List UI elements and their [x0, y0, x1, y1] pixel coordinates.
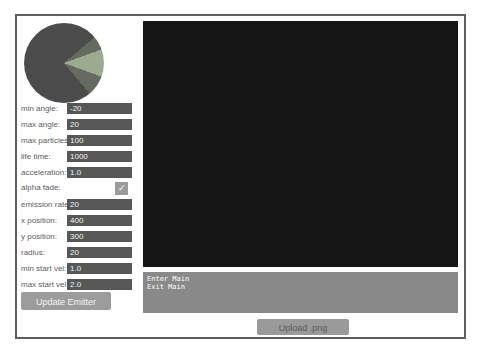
life-time-input[interactable]: 1000: [67, 151, 132, 162]
min-start-vel-label: min start vel:: [21, 264, 66, 273]
max-particles-value: 100: [67, 135, 132, 146]
update-emitter-button[interactable]: Update Emitter: [21, 292, 111, 310]
max-angle-input[interactable]: 20: [67, 119, 132, 130]
min-angle-label: min angle:: [21, 104, 58, 113]
field-row-max-start-vel: max start vel: 2.0: [21, 279, 133, 290]
y-position-label: y position:: [21, 232, 57, 241]
field-row-alpha-fade: alpha fade: ✓: [21, 182, 133, 195]
alpha-fade-checkbox[interactable]: ✓: [115, 182, 128, 195]
min-angle-value: -20: [67, 103, 132, 114]
page-frame: min angle: -20 max angle: 20 max particl…: [15, 14, 466, 339]
max-angle-value: 20: [67, 119, 132, 130]
max-particles-input[interactable]: 100: [67, 135, 132, 146]
field-row-min-angle: min angle: -20: [21, 103, 133, 114]
field-row-radius: radius: 20: [21, 247, 133, 258]
field-row-x-position: x position: 400: [21, 215, 133, 226]
emission-rate-value: 20: [67, 199, 132, 210]
y-position-value: 300: [67, 231, 132, 242]
console-log: Enter Main Exit Main: [143, 272, 458, 313]
particle-render-canvas[interactable]: [143, 21, 458, 267]
emission-rate-label: emission rate:: [21, 200, 71, 209]
max-start-vel-input[interactable]: 2.0: [67, 279, 132, 290]
field-row-emission-rate: emission rate: 20: [21, 199, 133, 210]
min-start-vel-value: 1.0: [67, 263, 132, 274]
acceleration-label: acceleration:: [21, 168, 66, 177]
field-row-max-angle: max angle: 20: [21, 119, 133, 130]
acceleration-value: 1.0: [67, 167, 132, 178]
emitter-angle-pie: [24, 23, 104, 103]
alpha-fade-label: alpha fade:: [21, 183, 61, 192]
radius-label: radius:: [21, 248, 45, 257]
x-position-label: x position:: [21, 216, 57, 225]
life-time-value: 1000: [67, 151, 132, 162]
max-start-vel-label: max start vel:: [21, 280, 69, 289]
upload-png-button[interactable]: Upload .png: [257, 319, 349, 335]
x-position-input[interactable]: 400: [67, 215, 132, 226]
checkmark-icon: ✓: [118, 183, 126, 193]
max-particles-label: max particles:: [21, 136, 70, 145]
radius-value: 20: [67, 247, 132, 258]
y-position-input[interactable]: 300: [67, 231, 132, 242]
x-position-value: 400: [67, 215, 132, 226]
field-row-life-time: life time: 1000: [21, 151, 133, 162]
emission-rate-input[interactable]: 20: [67, 199, 132, 210]
radius-input[interactable]: 20: [67, 247, 132, 258]
acceleration-input[interactable]: 1.0: [67, 167, 132, 178]
max-start-vel-value: 2.0: [67, 279, 132, 290]
min-start-vel-input[interactable]: 1.0: [67, 263, 132, 274]
field-row-max-particles: max particles: 100: [21, 135, 133, 146]
field-row-min-start-vel: min start vel: 1.0: [21, 263, 133, 274]
console-line: Enter Main: [147, 275, 458, 283]
max-angle-label: max angle:: [21, 120, 60, 129]
console-line: Exit Main: [147, 283, 458, 291]
min-angle-input[interactable]: -20: [67, 103, 132, 114]
field-row-acceleration: acceleration: 1.0: [21, 167, 133, 178]
app-window: min angle: -20 max angle: 20 max particl…: [0, 0, 477, 355]
life-time-label: life time:: [21, 152, 51, 161]
field-row-y-position: y position: 300: [21, 231, 133, 242]
